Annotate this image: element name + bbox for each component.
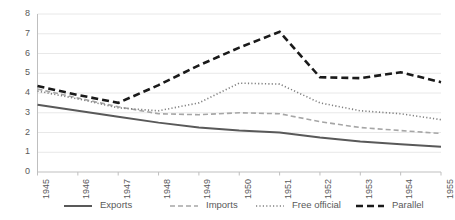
- x-tick-label: 1945: [42, 179, 51, 199]
- legend-label-parallel: Parallel: [392, 200, 424, 210]
- x-tick-marks: [38, 172, 442, 176]
- y-tick-label: 5: [14, 68, 30, 77]
- series-lines: [38, 32, 442, 147]
- x-tick-label: 1949: [203, 179, 212, 199]
- legend-label-exports: Exports: [100, 200, 132, 210]
- x-tick-label: 1951: [284, 179, 293, 199]
- x-tick-label: 1950: [244, 179, 253, 199]
- x-tick-label: 1948: [163, 179, 172, 199]
- x-tick-label: 1946: [82, 179, 91, 199]
- y-tick-label: 8: [14, 9, 30, 18]
- x-tick-label: 1953: [365, 179, 374, 199]
- y-tick-label: 0: [14, 167, 30, 176]
- y-tick-label: 6: [14, 49, 30, 58]
- y-tick-label: 4: [14, 88, 30, 97]
- y-tick-label: 3: [14, 108, 30, 117]
- series-line-parallel: [38, 32, 442, 103]
- y-tick-label: 2: [14, 128, 30, 137]
- series-line-imports: [38, 89, 442, 133]
- legend-label-free-official: Free official: [292, 200, 341, 210]
- series-line-exports: [38, 105, 442, 147]
- y-tick-label: 7: [14, 29, 30, 38]
- legend-label-imports: Imports: [206, 200, 238, 210]
- x-tick-label: 1947: [123, 179, 132, 199]
- gridlines: [38, 14, 442, 172]
- x-tick-label: 1955: [446, 179, 455, 199]
- x-tick-label: 1952: [324, 179, 333, 199]
- x-tick-label: 1954: [405, 179, 414, 199]
- y-tick-label: 1: [14, 147, 30, 156]
